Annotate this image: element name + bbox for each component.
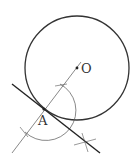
point-o	[76, 67, 79, 70]
label-o: O	[81, 61, 92, 76]
radial-line	[12, 62, 81, 153]
geometry-diagram: O A	[0, 0, 134, 166]
label-a: A	[37, 113, 48, 128]
point-a	[42, 107, 45, 110]
arc-tick-lower	[20, 127, 28, 137]
